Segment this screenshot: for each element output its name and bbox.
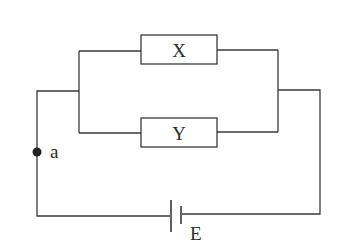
- node-dot: [33, 148, 42, 157]
- resistor-x-label: X: [172, 40, 186, 61]
- battery-label: E: [190, 223, 202, 244]
- node-a-label: a: [50, 141, 59, 162]
- right-outer-wire: [182, 90, 320, 214]
- battery-e: E: [171, 200, 202, 244]
- circuit-diagram: X Y E a: [0, 0, 347, 247]
- resistor-x: X: [141, 35, 217, 64]
- resistor-y: Y: [141, 118, 217, 147]
- resistor-y-label: Y: [172, 123, 186, 144]
